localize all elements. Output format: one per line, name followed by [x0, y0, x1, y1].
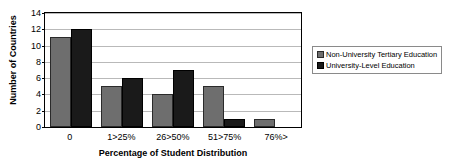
bar-76-series0 — [254, 119, 275, 127]
x-tick-label: 1>25% — [96, 132, 148, 142]
legend-swatch-icon — [317, 51, 324, 58]
y-tick-label: 8 — [36, 57, 41, 66]
bar-group — [96, 13, 147, 127]
bars-layer — [45, 13, 301, 127]
y-axis-title: Number of Countries — [8, 0, 18, 120]
y-tick-label: 14 — [31, 9, 41, 18]
legend-swatch-icon — [317, 62, 324, 69]
x-tick-label: 26>50% — [147, 132, 199, 142]
bar-group — [45, 13, 96, 127]
y-tick-label: 0 — [36, 123, 41, 132]
bar-group — [147, 13, 198, 127]
bar-5175-series1 — [224, 119, 245, 127]
bar-2650-series0 — [152, 94, 173, 127]
bar-125-series0 — [101, 86, 122, 127]
x-tick-label: 76%> — [250, 132, 302, 142]
bar-group — [250, 13, 301, 127]
legend-entry: University-Level Education — [317, 62, 437, 70]
y-tick-label: 10 — [31, 41, 41, 50]
y-tick-label: 2 — [36, 106, 41, 115]
x-tick-label: 51>75% — [199, 132, 251, 142]
bar-0-series1 — [71, 29, 92, 127]
bar-2650-series1 — [173, 70, 194, 127]
bar-125-series1 — [122, 78, 143, 127]
legend-label: Non-University Tertiary Education — [326, 51, 437, 59]
bar-chart-figure: Number of Countries 02468101214 01>25%26… — [0, 0, 452, 166]
legend-entry: Non-University Tertiary Education — [317, 51, 437, 59]
y-tick-label: 12 — [31, 25, 41, 34]
x-axis-title: Percentage of Student Distribution — [44, 148, 302, 158]
bar-0-series0 — [50, 37, 71, 127]
y-tick-label: 6 — [36, 74, 41, 83]
bar-group — [199, 13, 250, 127]
y-tick-label: 4 — [36, 90, 41, 99]
x-axis-tick-labels: 01>25%26>50%51>75%76%> — [44, 132, 302, 142]
chart-legend: Non-University Tertiary EducationUnivers… — [312, 46, 442, 74]
bar-5175-series0 — [203, 86, 224, 127]
plot-area: 02468101214 — [44, 12, 302, 128]
y-tick-mark — [42, 127, 45, 128]
x-tick-label: 0 — [44, 132, 96, 142]
legend-label: University-Level Education — [326, 62, 415, 70]
